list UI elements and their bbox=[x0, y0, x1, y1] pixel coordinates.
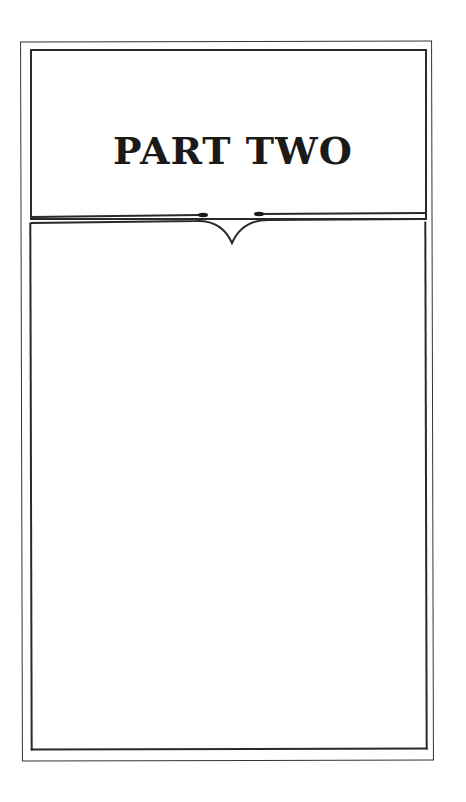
part-title: PART TWO bbox=[0, 128, 466, 173]
content-panel-frame bbox=[29, 221, 427, 750]
